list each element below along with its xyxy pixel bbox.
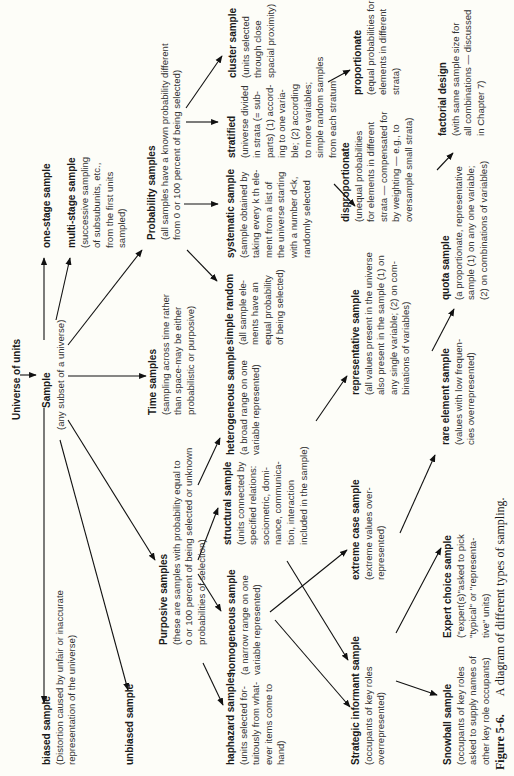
simple-random-desc-line: of being selected)	[274, 269, 287, 345]
time-desc-line: probabilistic or purposive)	[185, 294, 198, 415]
stratified-desc-line: to more variables;	[302, 57, 315, 158]
node-multi-stage: multi-stage sample (successive sampling …	[66, 157, 129, 248]
node-unbiased: unbiased sample	[124, 684, 137, 765]
disproportionate-desc-line: for elements in different	[365, 112, 378, 222]
node-time: Time samples (sampling across time rathe…	[147, 294, 197, 415]
representative-desc-line: (all values present in the universe	[363, 252, 376, 395]
systematic-title: systematic sample	[225, 169, 238, 258]
extreme-case-desc-line: (extreme values over-	[363, 479, 376, 580]
snowball-desc-line: other key role occupants)	[480, 656, 493, 765]
biased-title: biased sample	[41, 590, 54, 765]
structural-title: structural sample	[222, 446, 235, 545]
representative-desc-line: any single variable; (2) on com-	[388, 252, 401, 395]
snowball-desc-line: (occupants of key roles	[455, 656, 468, 765]
systematic-desc-line: randomly selected	[301, 169, 314, 258]
unbiased-title: unbiased sample	[124, 684, 137, 765]
extreme-case-title: extreme case sample	[350, 479, 363, 580]
structural-desc-line: sociometric, domi-	[260, 446, 273, 545]
node-probability: Probability samples (all samples have a …	[146, 43, 184, 240]
node-factorial: factorial design (with same sample size …	[437, 10, 487, 136]
probability-desc-line: from 0 or 100 percent of being selected)	[171, 43, 184, 240]
haphazard-desc-line: hand)	[275, 672, 288, 765]
figure-caption-text: A diagram of different types of sampling…	[493, 497, 507, 696]
stratified-desc-line: ing to one varia-	[276, 57, 289, 158]
figure-caption: Figure 5-6.A diagram of different types …	[493, 497, 508, 770]
heterogeneous-title: heterogeneous sample	[225, 346, 238, 455]
haphazard-desc-line: tuitously from what-	[250, 672, 263, 765]
stratified-desc-line: from each stratum	[327, 57, 340, 158]
node-snowball: Snowball sample (occupants of key roles …	[442, 656, 492, 765]
node-disproportionate: disproportionate (unequal probabilities …	[340, 112, 416, 222]
time-desc-line: (sampling across time rather	[160, 294, 173, 415]
sample-desc: (any subset of a universe)	[55, 320, 68, 430]
haphazard-title: haphazard samples	[225, 672, 238, 765]
factorial-desc-line: in Chapter 7)	[475, 10, 488, 136]
expert-choice-desc-line: ("expert(s)"asked to pick	[455, 534, 468, 638]
homogeneous-desc-line: variable represented)	[251, 569, 264, 675]
node-one-stage: one-stage sample	[41, 164, 54, 248]
node-heterogeneous: heterogeneous sample (a broad range on o…	[225, 346, 263, 455]
node-biased: biased sample (Distortion caused by unfa…	[41, 590, 79, 765]
heterogeneous-desc-line: variable represented)	[250, 346, 263, 455]
proportionate-desc-line: strata)	[390, 1, 403, 95]
multi-stage-desc-line: from the first units	[104, 157, 117, 248]
haphazard-desc-line: ever items come to	[263, 672, 276, 765]
universe-title: Universe of units	[11, 339, 24, 420]
quota-desc-line: sample (1) on any one variable;	[465, 161, 478, 300]
multi-stage-desc-line: (successive sampling	[79, 157, 92, 248]
time-desc-line: than space-may be either	[172, 294, 185, 415]
expert-choice-desc-line: tive" units)	[480, 534, 493, 638]
node-representative: representative sample (all values presen…	[350, 252, 413, 395]
quota-desc-line: (a proportionate, representative	[453, 161, 466, 300]
probability-title: Probability samples	[146, 43, 159, 240]
stratified-desc-line: simple random samples	[314, 57, 327, 158]
systematic-desc-line: the universe starting	[275, 169, 288, 258]
one-stage-title: one-stage sample	[41, 164, 54, 248]
node-strategic-informant: Strategic informant sample (occupants of…	[350, 636, 388, 765]
haphazard-desc-line: (units selected for-	[238, 672, 251, 765]
systematic-desc-line: (sample obtained by	[238, 169, 251, 258]
figure-label: Figure 5-6.	[493, 714, 507, 770]
homogeneous-title: homogeneous sample	[226, 569, 239, 675]
rare-element-desc-line: (values with low frequen-	[453, 339, 466, 445]
factorial-desc-line: all combinations — discussed	[462, 10, 475, 136]
multi-stage-desc-line: of subsubunits, etc.,	[91, 157, 104, 248]
strategic-informant-desc-line: overrepresented)	[375, 636, 388, 765]
proportionate-desc-line: (equal probabilities for	[365, 1, 378, 95]
rare-element-desc-line: cies overrepresented)	[465, 339, 478, 445]
purposive-desc-line: (these are samples with probability equa…	[171, 448, 184, 645]
disproportionate-desc-line: oversample small strata)	[403, 112, 416, 222]
snowball-title: Snowball sample	[442, 656, 455, 765]
sample-title: Sample	[41, 372, 54, 408]
structural-desc-line: specified relations:	[247, 446, 260, 545]
disproportionate-title: disproportionate	[340, 112, 353, 222]
node-universe: Universe of units	[11, 339, 24, 420]
node-haphazard: haphazard samples (units selected for- t…	[225, 672, 288, 765]
purposive-desc-line: probabilities of selection)	[196, 448, 209, 645]
structural-desc-line: (units connected by	[235, 446, 248, 545]
simple-random-desc-line: equal probability	[262, 269, 275, 345]
multi-stage-desc-line: sampled)	[116, 157, 129, 248]
proportionate-desc-line: elements in different	[377, 1, 390, 95]
factorial-desc-line: (with same sample size for	[450, 10, 463, 136]
structural-desc-line: nance, communica-	[272, 446, 285, 545]
probability-desc-line: (all samples have a known probability di…	[159, 43, 172, 240]
quota-title: quota sample	[440, 161, 453, 300]
simple-random-desc-line: (all sample ele-	[237, 269, 250, 345]
multi-stage-title: multi-stage sample	[66, 157, 79, 248]
structural-desc-line: tion, interaction	[285, 446, 298, 545]
node-simple-random: simple random (all sample ele- ments hav…	[224, 269, 287, 345]
factorial-title: factorial design	[437, 10, 450, 136]
snowball-desc-line: asked to supply names of	[467, 656, 480, 765]
node-sample-desc: (any subset of a universe)	[55, 320, 68, 430]
node-purposive: Purposive samples (these are samples wit…	[158, 448, 208, 645]
extreme-case-desc-line: represented)	[375, 479, 388, 580]
representative-desc-line: binations of variables)	[400, 252, 413, 395]
node-expert-choice: Expert choice sample ("expert(s)"asked t…	[442, 534, 492, 638]
systematic-desc-line: taking every k th ele-	[250, 169, 263, 258]
node-extreme-case: extreme case sample (extreme values over…	[350, 479, 388, 580]
disproportionate-desc-line: (unequal probabilities	[353, 112, 366, 222]
simple-random-title: simple random	[224, 269, 237, 345]
systematic-desc-line: with a number d<k,	[288, 169, 301, 258]
representative-title: representative sample	[350, 252, 363, 395]
